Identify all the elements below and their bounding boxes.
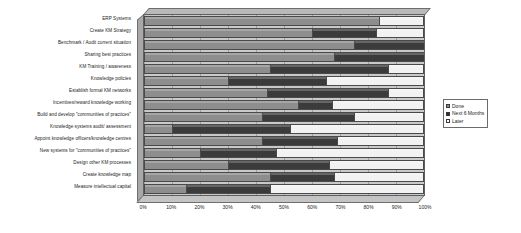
bar-segment-next-6-months[interactable] xyxy=(270,172,334,182)
bar-track xyxy=(144,184,424,194)
bar-segment-next-6-months[interactable] xyxy=(200,148,276,158)
bar-segment-done[interactable] xyxy=(144,112,262,122)
bar-segment-next-6-months[interactable] xyxy=(228,76,326,86)
category-label: Measure intellectual capital xyxy=(0,180,134,192)
value-axis: 0%10%20%30%40%50%60%70%80%90%100% xyxy=(137,200,432,216)
bar-row[interactable] xyxy=(144,99,424,111)
bar-segment-done[interactable] xyxy=(144,16,379,26)
bar-segment-later[interactable] xyxy=(376,28,424,38)
category-label: Build and develop "communities of practi… xyxy=(0,108,134,120)
bar-segment-later[interactable] xyxy=(379,16,424,26)
bar-segment-done[interactable] xyxy=(144,88,267,98)
legend-swatch-icon xyxy=(446,112,450,116)
bar-segment-next-6-months[interactable] xyxy=(312,28,376,38)
gridline xyxy=(424,15,425,195)
bar-row[interactable] xyxy=(144,51,424,63)
bar-segment-done[interactable] xyxy=(144,184,186,194)
bar-row[interactable] xyxy=(144,39,424,51)
chart-container: ERP SystemsCreate KM StrategyBenchmark /… xyxy=(0,0,521,233)
bar-row[interactable] xyxy=(144,27,424,39)
bar-segment-next-6-months[interactable] xyxy=(186,184,270,194)
chart-legend: DoneNext 6 MonthsLater xyxy=(443,99,488,128)
bar-row[interactable] xyxy=(144,63,424,75)
legend-item[interactable]: Later xyxy=(446,118,484,125)
bar-track xyxy=(144,160,424,170)
bar-segment-later[interactable] xyxy=(388,64,424,74)
bar-segment-next-6-months[interactable] xyxy=(334,52,424,62)
category-label: Design other KM processes xyxy=(0,156,134,168)
category-label: Create knowledge map xyxy=(0,168,134,180)
bar-row[interactable] xyxy=(144,123,424,135)
bar-segment-done[interactable] xyxy=(144,28,312,38)
bar-segment-next-6-months[interactable] xyxy=(172,124,290,134)
bar-track xyxy=(144,76,424,86)
bar-segment-done[interactable] xyxy=(144,136,262,146)
bar-segment-done[interactable] xyxy=(144,172,270,182)
plot-area xyxy=(137,8,425,204)
x-tick-label: 0% xyxy=(139,204,146,210)
legend-item[interactable]: Done xyxy=(446,103,484,110)
bar-segment-later[interactable] xyxy=(270,184,424,194)
x-tick-label: 50% xyxy=(279,204,289,210)
bar-series-group xyxy=(144,15,424,195)
bar-row[interactable] xyxy=(144,87,424,99)
bar-track xyxy=(144,124,424,134)
bar-track xyxy=(144,28,424,38)
x-tick-label: 90% xyxy=(392,204,402,210)
bar-track xyxy=(144,16,424,26)
bar-row[interactable] xyxy=(144,75,424,87)
x-tick-label: 30% xyxy=(223,204,233,210)
bar-segment-done[interactable] xyxy=(144,64,270,74)
bar-segment-later[interactable] xyxy=(388,88,424,98)
category-label: ERP Systems xyxy=(0,12,134,24)
bar-segment-later[interactable] xyxy=(332,100,424,110)
bar-segment-later[interactable] xyxy=(329,160,424,170)
bar-track xyxy=(144,136,424,146)
bar-segment-next-6-months[interactable] xyxy=(354,40,424,50)
bar-row[interactable] xyxy=(144,135,424,147)
bar-segment-done[interactable] xyxy=(144,160,228,170)
bar-segment-done[interactable] xyxy=(144,124,172,134)
bar-segment-next-6-months[interactable] xyxy=(298,100,332,110)
bar-track xyxy=(144,52,424,62)
bar-track xyxy=(144,172,424,182)
bar-segment-next-6-months[interactable] xyxy=(262,136,338,146)
bar-track xyxy=(144,40,424,50)
x-tick-label: 60% xyxy=(307,204,317,210)
bar-row[interactable] xyxy=(144,147,424,159)
bar-segment-done[interactable] xyxy=(144,76,228,86)
bar-row[interactable] xyxy=(144,183,424,195)
bar-segment-later[interactable] xyxy=(276,148,424,158)
legend-item[interactable]: Next 6 Months xyxy=(446,110,484,117)
bar-segment-later[interactable] xyxy=(337,136,424,146)
bar-row[interactable] xyxy=(144,15,424,27)
x-tick-label: 80% xyxy=(364,204,374,210)
bar-track xyxy=(144,112,424,122)
bar-segment-later[interactable] xyxy=(354,112,424,122)
category-label: Knowledge systems audit/ assessment xyxy=(0,120,134,132)
bar-segment-done[interactable] xyxy=(144,40,354,50)
category-label: Incentives/reward knowledge working xyxy=(0,96,134,108)
bar-segment-next-6-months[interactable] xyxy=(262,112,354,122)
bar-segment-done[interactable] xyxy=(144,148,200,158)
legend-label: Done xyxy=(452,103,464,110)
bar-segment-later[interactable] xyxy=(334,172,424,182)
bar-segment-later[interactable] xyxy=(326,76,424,86)
legend-label: Later xyxy=(452,118,463,125)
bar-track xyxy=(144,88,424,98)
bar-segment-later[interactable] xyxy=(290,124,424,134)
category-label: New systems for "communities of practice… xyxy=(0,144,134,156)
bar-track xyxy=(144,148,424,158)
category-label: Appoint knowledge officers/knowledge cen… xyxy=(0,132,134,144)
bar-segment-done[interactable] xyxy=(144,100,298,110)
bar-segment-done[interactable] xyxy=(144,52,334,62)
bar-segment-next-6-months[interactable] xyxy=(228,160,329,170)
bar-row[interactable] xyxy=(144,159,424,171)
bar-segment-next-6-months[interactable] xyxy=(270,64,388,74)
bar-track xyxy=(144,64,424,74)
bar-row[interactable] xyxy=(144,171,424,183)
category-axis: ERP SystemsCreate KM StrategyBenchmark /… xyxy=(0,12,134,192)
bar-row[interactable] xyxy=(144,111,424,123)
category-label: Knowledge policies xyxy=(0,72,134,84)
bar-segment-next-6-months[interactable] xyxy=(267,88,387,98)
